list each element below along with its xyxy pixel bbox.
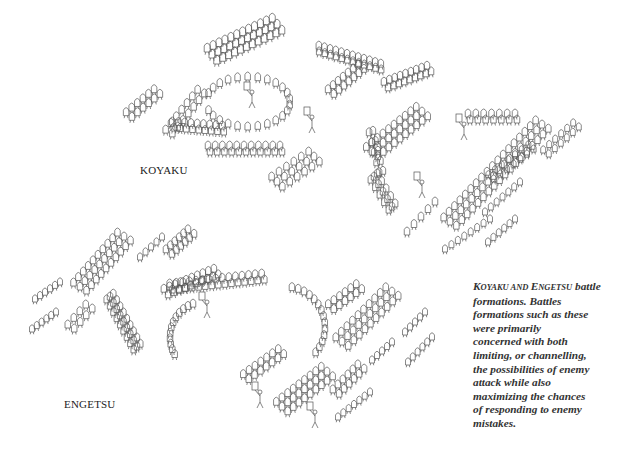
soldier-icon [296, 162, 302, 173]
soldier-icon [316, 47, 322, 58]
soldier-icon [190, 299, 196, 310]
formation-bowl-bottom-block [241, 345, 287, 385]
soldier-icon [280, 111, 286, 122]
soldier-icon [411, 220, 417, 231]
soldier-icon [279, 25, 285, 37]
soldier-icon [481, 219, 486, 228]
soldier-icon [58, 278, 63, 287]
formation-left-small-block [65, 300, 95, 335]
soldier-icon [355, 360, 361, 371]
soldier-icon [280, 182, 286, 193]
soldier-icon [276, 167, 282, 178]
soldier-icon [274, 177, 280, 188]
soldier-icon [233, 38, 239, 50]
soldier-icon [215, 46, 221, 58]
soldier-icon [576, 123, 581, 132]
soldier-icon [500, 193, 505, 202]
soldier-icon [361, 54, 367, 65]
soldier-icon [453, 211, 459, 222]
soldier-icon [306, 147, 312, 158]
soldier-icon [44, 315, 49, 324]
soldier-icon [389, 287, 395, 298]
soldier-icon [336, 413, 341, 422]
soldier-icon [357, 330, 363, 341]
soldier-icon [121, 232, 127, 243]
soldier-icon [488, 203, 493, 212]
soldier-icon [186, 109, 192, 120]
soldier-icon [30, 325, 35, 334]
soldier-icon [341, 409, 346, 418]
soldier-icon [359, 284, 365, 295]
soldier-icon [339, 53, 345, 64]
soldier-icon [390, 297, 396, 308]
soldier-icon [459, 215, 465, 226]
soldier-icon [443, 245, 448, 254]
soldier-icon [372, 294, 378, 305]
soldier-icon [191, 229, 197, 240]
soldier-icon [348, 292, 354, 303]
soldier-icon [418, 313, 423, 322]
formation-bottom-small-row [404, 197, 438, 238]
soldier-icon [220, 141, 226, 152]
soldier-icon [403, 328, 408, 337]
soldier-icon [245, 72, 251, 83]
soldier-icon [65, 320, 71, 331]
soldier-icon [467, 115, 473, 126]
soldier-icon [449, 241, 454, 250]
soldier-icon [535, 136, 541, 147]
soldier-icon [269, 13, 275, 25]
soldier-icon [364, 142, 370, 153]
soldier-icon [475, 115, 481, 126]
soldier-icon [331, 304, 337, 315]
formation-left-small-row-2 [30, 308, 59, 334]
soldier-icon [174, 112, 180, 123]
soldier-icon [184, 124, 190, 135]
soldier-icon [350, 326, 356, 337]
soldier-icon [504, 109, 510, 120]
soldier-icon [135, 108, 141, 119]
soldier-icon [285, 407, 291, 418]
soldier-icon [423, 308, 428, 317]
soldier-icon [279, 147, 285, 158]
soldier-icon [146, 99, 152, 110]
soldier-icon [77, 317, 83, 328]
soldier-icon [533, 116, 539, 127]
soldier-icon [209, 49, 215, 61]
soldier-icon [317, 157, 323, 168]
soldier-icon [397, 71, 403, 82]
soldier-icon [195, 85, 201, 96]
soldier-icon [170, 129, 176, 140]
soldier-icon [123, 108, 129, 119]
soldier-icon [403, 69, 409, 80]
caption-title-battle: battle [572, 280, 601, 292]
soldier-icon [221, 44, 227, 56]
soldier-icon [302, 167, 308, 178]
formation-left-small-squad [123, 85, 162, 123]
soldier-icon [235, 121, 241, 132]
formation-mid-arc-column [364, 102, 431, 162]
soldier-icon [373, 313, 379, 324]
formation-center-lower-block [269, 147, 322, 192]
formation-lower-pike-column [274, 362, 336, 417]
soldier-icon [212, 141, 218, 152]
soldier-icon [191, 102, 197, 113]
soldier-icon [378, 59, 384, 69]
soldier-icon [319, 380, 325, 391]
soldier-icon [279, 402, 285, 413]
soldier-icon [272, 147, 278, 158]
soldier-icon [321, 311, 327, 322]
soldier-icon [226, 50, 232, 62]
soldier-icon [546, 124, 552, 134]
soldier-icon [261, 33, 267, 45]
soldier-icon [375, 351, 380, 360]
soldier-icon [384, 302, 390, 313]
soldier-icon [269, 172, 275, 183]
soldier-icon [420, 343, 425, 352]
soldier-icon [540, 130, 546, 141]
soldier-icon [430, 333, 435, 342]
caption-line-1: KOYAKU AND ENGETSU battle [473, 280, 641, 295]
soldier-icon [481, 193, 487, 204]
soldier-icon [255, 121, 261, 132]
soldier-icon [344, 322, 350, 333]
soldier-icon [570, 128, 575, 137]
